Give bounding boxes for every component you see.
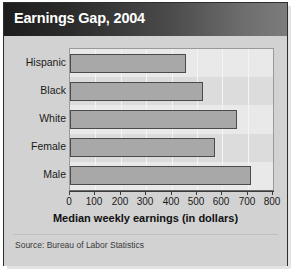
x-tick-label: 100: [86, 196, 103, 207]
x-tick-label: 300: [137, 196, 154, 207]
x-tick: [196, 191, 197, 195]
figure-shadow-bottom: [7, 266, 290, 269]
plot-area: [69, 48, 274, 191]
category-axis-labels: HispanicBlackWhiteFemaleMale: [4, 48, 66, 191]
source-divider: [13, 234, 278, 235]
x-tick-label: 700: [239, 196, 256, 207]
x-tick-label: 600: [213, 196, 230, 207]
bar-male: [70, 166, 251, 185]
page-title: Earnings Gap, 2004: [14, 10, 145, 26]
x-tick-label: 800: [264, 196, 281, 207]
figure-shadow-right: [288, 6, 291, 268]
category-label-hispanic: Hispanic: [4, 56, 66, 68]
x-tick: [120, 191, 121, 195]
x-tick: [272, 191, 273, 195]
x-tick-label: 0: [66, 196, 72, 207]
chart-figure: Earnings Gap, 2004 HispanicBlackWhiteFem…: [0, 0, 293, 271]
category-label-male: Male: [4, 168, 66, 180]
chart-frame: Earnings Gap, 2004 HispanicBlackWhiteFem…: [3, 2, 288, 266]
bar-hispanic: [70, 54, 186, 73]
bar-black: [70, 82, 203, 101]
bar-white: [70, 110, 237, 129]
x-tick: [247, 191, 248, 195]
x-tick: [221, 191, 222, 195]
chart-body: HispanicBlackWhiteFemaleMale 01002003004…: [4, 36, 287, 266]
x-tick: [145, 191, 146, 195]
source-note: Source: Bureau of Labor Statistics: [15, 240, 144, 250]
x-tick: [171, 191, 172, 195]
x-tick-label: 500: [188, 196, 205, 207]
x-axis-title: Median weekly earnings (in dollars): [4, 212, 287, 224]
category-label-female: Female: [4, 140, 66, 152]
bar-female: [70, 138, 215, 157]
plot-gridline: [273, 49, 274, 190]
category-label-black: Black: [4, 84, 66, 96]
x-tick: [94, 191, 95, 195]
chart-title-bar: Earnings Gap, 2004: [4, 3, 287, 36]
x-tick-label: 200: [112, 196, 129, 207]
x-tick: [69, 191, 70, 195]
x-tick-label: 400: [163, 196, 180, 207]
category-label-white: White: [4, 112, 66, 124]
